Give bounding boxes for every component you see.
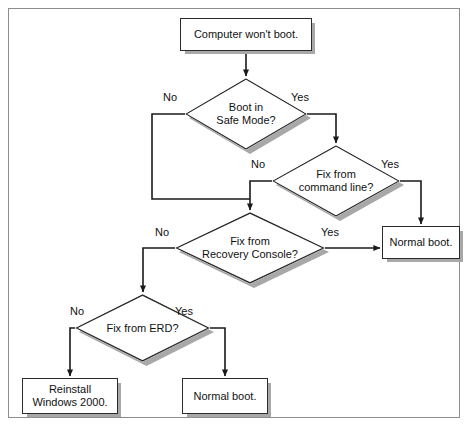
edge-label-recovery-no: No: [155, 226, 169, 238]
node-label: Computer won't boot.: [190, 28, 302, 41]
node-fix-from-recovery-console[interactable]: Fix from Recovery Console?: [175, 212, 325, 284]
node-label: Boot in Safe Mode?: [185, 78, 307, 150]
edge-label-erd-yes: Yes: [175, 305, 193, 317]
node-computer-wont-boot[interactable]: Computer won't boot.: [180, 18, 312, 51]
edge-label-erd-no: No: [70, 305, 84, 317]
node-reinstall-windows-2000[interactable]: Reinstall Windows 2000.: [22, 378, 118, 414]
node-fix-from-command-line[interactable]: Fix from command line?: [272, 145, 400, 217]
edge-label-safe-mode-yes: Yes: [291, 91, 309, 103]
edge-label-command-line-no: No: [251, 158, 265, 170]
edge-label-command-line-yes: Yes: [381, 158, 399, 170]
node-label: Fix from command line?: [272, 145, 400, 217]
flowchart-canvas: Computer won't boot. Boot in Safe Mode? …: [0, 0, 474, 441]
node-normal-boot-right[interactable]: Normal boot.: [382, 226, 460, 259]
edge-label-recovery-yes: Yes: [321, 226, 339, 238]
node-label: Reinstall Windows 2000.: [28, 383, 111, 409]
node-label: Normal boot.: [190, 390, 261, 403]
node-boot-in-safe-mode[interactable]: Boot in Safe Mode?: [185, 78, 307, 150]
node-label: Normal boot.: [386, 236, 457, 249]
edge-label-safe-mode-no: No: [163, 91, 177, 103]
node-normal-boot-bottom[interactable]: Normal boot.: [182, 378, 268, 414]
node-label: Fix from Recovery Console?: [175, 212, 325, 284]
